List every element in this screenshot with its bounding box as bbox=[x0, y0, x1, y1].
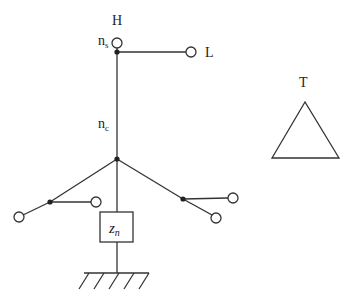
right-branch-horizontal bbox=[183, 198, 228, 199]
right-branch-lower bbox=[183, 199, 212, 215]
schematic: H L T ns nc zn bbox=[0, 0, 351, 304]
tertiary-delta-icon bbox=[272, 102, 339, 158]
node-right bbox=[180, 196, 185, 201]
label-zn: zn bbox=[108, 220, 120, 238]
node-left bbox=[47, 199, 52, 204]
terminal-left-a[interactable] bbox=[91, 197, 101, 207]
node-series bbox=[114, 49, 119, 54]
terminal-h[interactable] bbox=[112, 38, 122, 48]
ground-icon bbox=[79, 273, 149, 289]
terminal-right-a[interactable] bbox=[228, 193, 238, 203]
terminal-l[interactable] bbox=[186, 47, 196, 57]
left-branch bbox=[50, 159, 117, 202]
left-branch-lower bbox=[23, 202, 50, 215]
label-l: L bbox=[205, 45, 214, 60]
diagram-canvas: H L T ns nc zn bbox=[0, 0, 351, 304]
label-nc: nc bbox=[98, 116, 109, 133]
label-ns: ns bbox=[98, 33, 109, 50]
label-t: T bbox=[299, 75, 308, 90]
node-center bbox=[114, 156, 119, 161]
right-branch bbox=[117, 159, 183, 199]
terminal-left-b[interactable] bbox=[14, 212, 24, 222]
label-h: H bbox=[112, 13, 122, 28]
terminal-right-b[interactable] bbox=[211, 213, 221, 223]
